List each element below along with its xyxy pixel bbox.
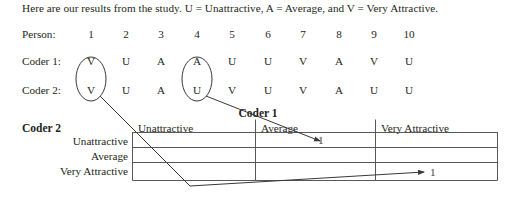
circle-person-4 — [182, 57, 212, 101]
matrix-grid — [133, 120, 498, 181]
scanned-page: Here are our results from the study. U =… — [0, 0, 516, 205]
leader-person-4-to-average-cell — [206, 96, 320, 141]
circle-person-1 — [76, 57, 106, 101]
diagram-overlay — [0, 0, 516, 205]
